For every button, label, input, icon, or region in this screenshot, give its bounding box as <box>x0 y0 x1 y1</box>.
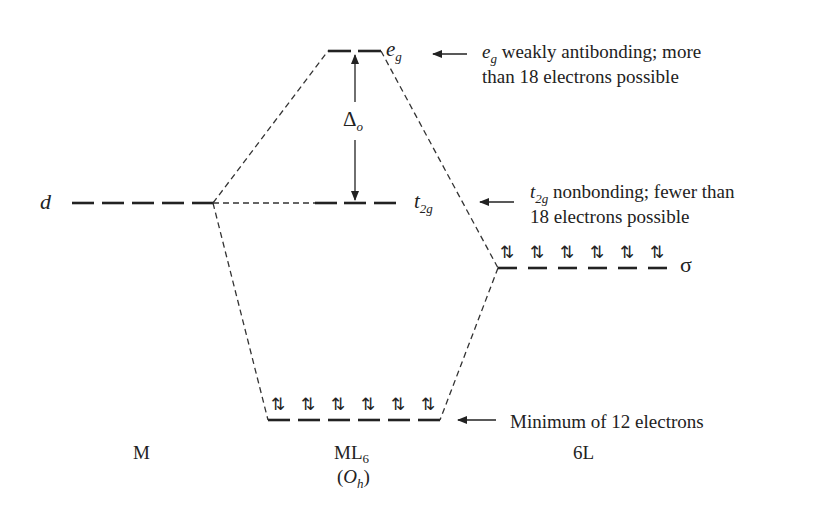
electron-pair: ⇅ <box>391 394 405 414</box>
electron-pair: ⇅ <box>271 394 285 414</box>
eg-to-sigma-line <box>381 51 498 268</box>
symmetry-symbol: O <box>343 466 357 487</box>
eg-annotation-sub: g <box>490 51 497 66</box>
column-label-ligands: 6L <box>573 442 594 464</box>
metal-d-label: d <box>40 191 51 213</box>
t2g-label-sub: 2g <box>420 201 433 216</box>
delta-symbol: Δ <box>343 107 357 131</box>
t2g-label: t2g <box>414 190 433 215</box>
eg-annotation: eg weakly antibonding; more than 18 elec… <box>482 40 701 88</box>
eg-label: eg <box>386 38 402 63</box>
electron-pair: ⇅ <box>530 242 544 262</box>
column-label-symmetry: (Oh) <box>337 466 370 490</box>
eg-label-symbol: e <box>386 37 395 61</box>
eg-annotation-line2: than 18 electrons possible <box>482 65 701 88</box>
t2g-annotation-line2: 18 electrons possible <box>530 205 735 228</box>
column-label-metal: M <box>133 442 150 464</box>
delta-o-label: Δo <box>343 108 363 133</box>
symmetry-sub: h <box>357 476 364 491</box>
complex-formula-sub: 6 <box>363 451 370 466</box>
t2g-annotation-sub: 2g <box>535 191 548 206</box>
electron-pair: ⇅ <box>421 394 435 414</box>
eg-annotation-text1: weakly antibonding; more <box>497 41 701 62</box>
electron-pair: ⇅ <box>560 242 574 262</box>
t2g-annotation-line1: t2g nonbonding; fewer than <box>530 180 735 205</box>
eg-annotation-line1: eg weakly antibonding; more <box>482 40 701 65</box>
sigma-label: σ <box>680 254 692 276</box>
electron-pair: ⇅ <box>361 394 375 414</box>
electron-pair: ⇅ <box>590 242 604 262</box>
column-label-complex: ML6 <box>334 442 369 466</box>
eg-label-sub: g <box>395 49 402 64</box>
annotation-arrows <box>433 54 514 420</box>
symmetry-close: ) <box>364 466 370 487</box>
bonding-annotation: Minimum of 12 electrons <box>510 410 704 433</box>
delta-sub: o <box>357 119 364 134</box>
electron-pair: ⇅ <box>650 242 664 262</box>
t2g-label-symbol: t <box>414 189 420 213</box>
electron-pair: ⇅ <box>301 394 315 414</box>
d-to-bonding-line <box>213 203 268 420</box>
electron-pair: ⇅ <box>620 242 634 262</box>
electron-pair: ⇅ <box>331 394 345 414</box>
mo-diagram-lines <box>0 0 833 522</box>
complex-formula: ML <box>334 442 363 463</box>
electron-pair: ⇅ <box>500 242 514 262</box>
sigma-to-bonding-line <box>440 268 498 420</box>
t2g-annotation: t2g nonbonding; fewer than 18 electrons … <box>530 180 735 228</box>
d-to-eg-line <box>213 51 328 203</box>
t2g-annotation-text1: nonbonding; fewer than <box>548 181 734 202</box>
